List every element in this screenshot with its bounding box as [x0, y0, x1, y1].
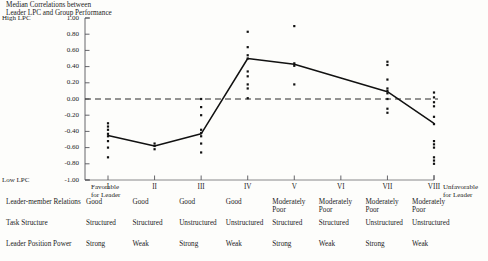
table-cell-line: Unstructured — [179, 219, 217, 227]
data-point — [386, 61, 388, 63]
x-tick-label-ii: II — [152, 183, 157, 191]
table-cell-line: Weak — [226, 240, 242, 248]
data-point — [386, 112, 388, 114]
unfavorable-line-1: Unfavorable — [443, 183, 478, 191]
data-point — [386, 64, 388, 66]
table-cell-line: Poor — [319, 206, 352, 214]
table-cell: Good — [86, 198, 102, 206]
x-tick-label-iv: IV — [244, 183, 252, 191]
data-point — [200, 114, 202, 116]
data-point — [107, 147, 109, 149]
table-cell: Weak — [319, 240, 335, 248]
table-cell-line: Structured — [86, 219, 116, 227]
data-point — [433, 147, 435, 149]
table-cell: Structured — [319, 219, 349, 227]
table-row: Leader-member RelationsGoodGoodGoodGoodM… — [0, 198, 488, 219]
table-cell: Strong — [272, 240, 291, 248]
row-label: Leader-member Relations — [6, 198, 81, 206]
table-cell-line: Good — [226, 198, 242, 206]
x-tick-label-vi: VI — [337, 183, 345, 191]
table-cell-line: Structured — [319, 219, 349, 227]
data-point — [247, 54, 249, 56]
table-cell: Weak — [226, 240, 242, 248]
data-point — [433, 156, 435, 158]
data-point — [433, 143, 435, 145]
data-point — [293, 65, 295, 67]
data-point — [200, 98, 202, 100]
table-cell-line: Structured — [133, 219, 163, 227]
table-cell-line: Unstructured — [412, 219, 450, 227]
table-cell: Unstructured — [179, 219, 217, 227]
x-tick-label-iii: III — [198, 183, 205, 191]
data-point — [386, 92, 388, 94]
data-point — [107, 135, 109, 137]
data-point — [107, 133, 109, 135]
table-cell-line: Weak — [412, 240, 428, 248]
data-point — [386, 90, 388, 92]
data-point — [247, 46, 249, 48]
table-cell: Strong — [179, 240, 198, 248]
chart-figure: Median Correlations between Leader LPC a… — [0, 0, 488, 261]
data-point — [433, 123, 435, 125]
table-row: Leader Position PowerStrongWeakStrongWea… — [0, 240, 488, 261]
row-label: Leader Position Power — [6, 240, 71, 248]
data-point — [247, 70, 249, 72]
favorable-line-1: Favorable — [91, 183, 120, 191]
table-cell-line: Good — [86, 198, 102, 206]
table-cell-line: Unstructured — [365, 219, 403, 227]
table-cell: Unstructured — [412, 219, 450, 227]
table-cell: ModeratelyPoor — [412, 198, 445, 215]
table-cell-line: Poor — [412, 206, 445, 214]
table-cell-line: Strong — [86, 240, 105, 248]
table-cell: Strong — [86, 240, 105, 248]
data-point — [200, 132, 202, 134]
table-cell: ModeratelyPoor — [365, 198, 398, 215]
table-cell: Good — [226, 198, 242, 206]
table-cell-line: Moderately — [272, 198, 305, 206]
data-point — [247, 57, 249, 59]
table-cell-line: Strong — [365, 240, 384, 248]
data-point — [107, 122, 109, 124]
table-cell-line: Moderately — [412, 198, 445, 206]
table-cell-line: Poor — [365, 206, 398, 214]
table-cell: Weak — [412, 240, 428, 248]
data-point — [433, 96, 435, 98]
data-point — [433, 101, 435, 103]
table-cell-line: Poor — [272, 206, 305, 214]
data-point — [200, 151, 202, 153]
data-point — [433, 105, 435, 107]
table-cell: Structured — [272, 219, 302, 227]
data-point — [153, 142, 155, 144]
data-point — [386, 98, 388, 100]
data-point — [247, 97, 249, 99]
data-point — [107, 125, 109, 127]
data-point — [433, 159, 435, 161]
table-cell: Unstructured — [365, 219, 403, 227]
data-point — [247, 75, 249, 77]
data-point — [247, 31, 249, 33]
table-cell: Good — [179, 198, 195, 206]
data-point — [200, 142, 202, 144]
data-point — [200, 135, 202, 137]
data-point — [200, 106, 202, 108]
data-point — [247, 87, 249, 89]
x-tick-label-vii: VII — [382, 183, 392, 191]
table-cell-line: Moderately — [365, 198, 398, 206]
table-cell-line: Weak — [319, 240, 335, 248]
table-cell-line: Good — [179, 198, 195, 206]
table-cell-line: Strong — [179, 240, 198, 248]
data-point — [293, 83, 295, 85]
data-point — [153, 145, 155, 147]
table-cell-line: Unstructured — [226, 219, 264, 227]
table-cell-line: Structured — [272, 219, 302, 227]
data-point — [293, 62, 295, 64]
table-cell: Unstructured — [226, 219, 264, 227]
table-cell: Good — [133, 198, 149, 206]
x-tick-label-v: V — [292, 183, 297, 191]
table-cell: Structured — [86, 219, 116, 227]
median-correlation-line — [108, 59, 434, 146]
data-point — [293, 25, 295, 27]
data-point — [107, 140, 109, 142]
table-cell: ModeratelyPoor — [319, 198, 352, 215]
data-point — [107, 129, 109, 131]
